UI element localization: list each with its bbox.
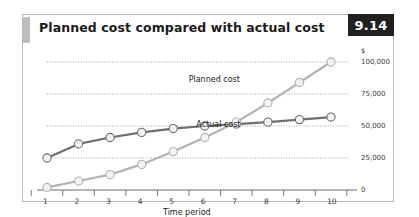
data-point-marker (43, 183, 51, 191)
y-axis-tick-label: 25,000 (361, 154, 386, 162)
x-axis-tick-label: 5 (169, 197, 174, 206)
data-point-marker (169, 148, 177, 156)
data-point-marker (138, 160, 146, 168)
y-axis-tick-label: 75,000 (361, 90, 386, 98)
y-axis-tick-label: 0 (361, 186, 365, 194)
figure-header: Planned cost compared with actual cost 9… (23, 15, 393, 45)
title-accent-bar (23, 17, 30, 43)
y-axis-tick-label: 50,000 (361, 122, 386, 130)
series-line (47, 117, 331, 158)
x-axis-tick-label: 2 (75, 197, 80, 206)
page-title: Planned cost compared with actual cost (39, 20, 325, 35)
x-axis-tick-label: 8 (264, 197, 269, 206)
x-axis-tick-label: 4 (138, 197, 143, 206)
series-annotation-label: Planned cost (189, 75, 240, 84)
chart-plot-area: 025,00050,00075,000100,000$12345678910Ti… (23, 43, 395, 203)
data-point-marker (169, 124, 177, 132)
x-axis-tick-label: 1 (43, 197, 48, 206)
data-point-marker (74, 140, 82, 148)
x-axis-tick-label: 7 (232, 197, 237, 206)
x-axis-title: Time period (163, 208, 211, 217)
x-axis-tick-label: 3 (106, 197, 111, 206)
data-point-marker (43, 154, 51, 162)
figure-number-badge: 9.14 (348, 14, 394, 36)
x-axis-tick-label: 10 (327, 197, 337, 206)
y-axis-tick-label: 100,000 (361, 58, 390, 66)
data-point-marker (106, 171, 114, 179)
data-point-marker (295, 78, 303, 86)
x-axis-tick-label: 9 (295, 197, 300, 206)
data-point-marker (106, 133, 114, 141)
data-point-marker (74, 177, 82, 185)
data-point-marker (295, 116, 303, 124)
data-point-marker (201, 133, 209, 141)
data-point-marker (264, 118, 272, 126)
data-point-marker (264, 99, 272, 107)
data-point-marker (327, 113, 335, 121)
data-point-marker (138, 128, 146, 136)
y-axis-unit-label: $ (361, 47, 365, 55)
x-axis-tick-label: 6 (201, 197, 206, 206)
figure-panel: Planned cost compared with actual cost 9… (22, 14, 394, 202)
series-annotation-label: Actual cost (196, 120, 240, 129)
data-point-marker (327, 58, 335, 66)
